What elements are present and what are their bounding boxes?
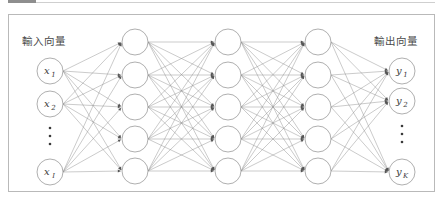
neuron-circle xyxy=(122,94,148,120)
neuron-circle xyxy=(305,158,331,184)
neuron-input-1[interactable]: x1 xyxy=(37,58,63,84)
connection-line xyxy=(241,108,304,171)
connection-line xyxy=(331,72,388,139)
neuron-circle xyxy=(215,29,241,55)
neuron-label: x xyxy=(44,65,50,76)
connection-line xyxy=(331,102,388,171)
neuron-circle xyxy=(215,62,241,88)
ellipsis-dot xyxy=(49,127,52,130)
neuron-circle xyxy=(122,29,148,55)
connection-line xyxy=(148,43,214,139)
neuron-circle xyxy=(122,126,148,152)
neuron-hidden3-5[interactable] xyxy=(305,158,331,184)
connection-line xyxy=(63,171,121,172)
network-graph: x1x2xIy1y2yK xyxy=(0,0,443,201)
neuron-output-2[interactable]: y2 xyxy=(389,88,415,114)
vertical-ellipsis xyxy=(401,125,404,144)
connection-line xyxy=(63,104,121,170)
neuron-output-4[interactable]: yK xyxy=(389,159,415,185)
connection-line xyxy=(241,139,304,170)
connection-line xyxy=(63,140,121,172)
connection-line xyxy=(148,75,214,138)
connection-line xyxy=(241,42,304,170)
ellipsis-dot xyxy=(401,133,404,136)
neuron-circle xyxy=(305,94,331,120)
connection-line xyxy=(63,43,121,104)
neuron-hidden1-5[interactable] xyxy=(122,158,148,184)
connection-line xyxy=(63,104,121,138)
neuron-circle xyxy=(37,58,63,84)
connection-line xyxy=(148,108,214,171)
ellipsis-dot xyxy=(49,143,52,146)
neuron-label: x xyxy=(44,98,50,109)
neuron-hidden2-2[interactable] xyxy=(215,62,241,88)
neuron-circle xyxy=(37,159,63,185)
neuron-hidden3-2[interactable] xyxy=(305,62,331,88)
ellipsis-dot xyxy=(49,135,52,138)
connection-line xyxy=(331,139,388,171)
neuron-label-subscript: 1 xyxy=(51,71,55,79)
connection-line xyxy=(63,43,122,172)
connection-line xyxy=(63,71,121,170)
connection-line xyxy=(148,75,214,170)
neuron-hidden2-3[interactable] xyxy=(215,94,241,120)
neuron-circle xyxy=(305,29,331,55)
input-vector-label: 輸入向量 xyxy=(22,33,66,48)
connection-line xyxy=(241,43,304,139)
connection-line xyxy=(148,139,214,170)
connection-line xyxy=(241,107,304,170)
connection-line xyxy=(148,42,214,106)
connection-line xyxy=(331,71,388,75)
neuron-hidden3-1[interactable] xyxy=(305,29,331,55)
connection-line xyxy=(63,76,121,104)
neuron-input-4[interactable]: xI xyxy=(37,159,63,185)
neuron-label-subscript: 2 xyxy=(50,104,56,112)
neuron-hidden2-1[interactable] xyxy=(215,29,241,55)
connection-line xyxy=(63,71,121,106)
connection-line xyxy=(63,71,121,75)
connection-line xyxy=(331,107,388,171)
neuron-label: y xyxy=(395,65,402,76)
neuron-circle xyxy=(215,126,241,152)
connection-line xyxy=(331,42,388,100)
connection-line xyxy=(331,102,388,139)
neuron-circle xyxy=(215,158,241,184)
ellipsis-dot xyxy=(401,141,404,144)
output-vector-label: 輸出向量 xyxy=(374,33,418,48)
neuron-circle xyxy=(389,58,415,84)
neuron-circle xyxy=(305,62,331,88)
vertical-ellipsis xyxy=(49,127,52,146)
neuron-hidden1-3[interactable] xyxy=(122,94,148,120)
neuron-hidden1-2[interactable] xyxy=(122,62,148,88)
neuron-label-subscript: K xyxy=(402,172,409,180)
neuron-output-1[interactable]: y1 xyxy=(389,58,415,84)
neuron-hidden2-4[interactable] xyxy=(215,126,241,152)
neuron-circle xyxy=(122,158,148,184)
neuron-circle xyxy=(389,88,415,114)
connection-line xyxy=(241,42,304,106)
neuron-hidden1-4[interactable] xyxy=(122,126,148,152)
neuron-input-2[interactable]: x2 xyxy=(37,91,63,117)
neuron-circle xyxy=(37,91,63,117)
connection-line xyxy=(331,42,389,171)
figure-canvas: x1x2xIy1y2yK 輸入向量 輸出向量 xyxy=(0,0,443,201)
neuron-hidden1-1[interactable] xyxy=(122,29,148,55)
connection-line xyxy=(148,43,214,75)
neuron-hidden2-5[interactable] xyxy=(215,158,241,184)
connection-line xyxy=(63,76,121,172)
connection-line xyxy=(331,72,388,171)
neuron-hidden3-4[interactable] xyxy=(305,126,331,152)
neuron-label: x xyxy=(44,166,50,177)
connection-line xyxy=(241,43,304,75)
neuron-label-subscript: I xyxy=(51,172,55,180)
connection-line xyxy=(63,43,121,71)
connection-line xyxy=(241,75,304,138)
neuron-hidden3-3[interactable] xyxy=(305,94,331,120)
neuron-label: y xyxy=(395,95,402,106)
connection-line xyxy=(331,171,388,172)
connection-line xyxy=(241,75,304,170)
arrowhead xyxy=(118,170,121,173)
connection-line xyxy=(148,42,214,170)
ellipsis-dot xyxy=(401,125,404,128)
connection-line xyxy=(63,108,121,172)
